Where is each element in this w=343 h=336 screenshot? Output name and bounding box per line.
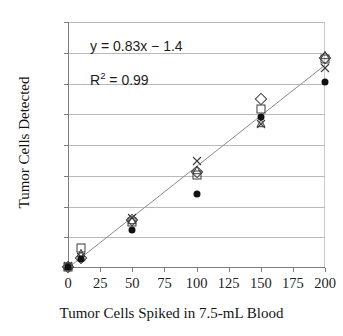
r-squared-annotation: R2 = 0.99	[90, 70, 149, 88]
data-point-open-triangle	[321, 51, 330, 60]
x-tick-mark	[164, 268, 165, 272]
x-tick-mark	[293, 268, 294, 272]
x-tick-mark	[197, 268, 198, 272]
x-tick-label: 200	[305, 276, 343, 291]
y-tick-mark	[64, 53, 68, 54]
gridline	[68, 22, 325, 23]
gridline	[68, 114, 325, 115]
data-point-filled-circle	[129, 226, 136, 233]
data-point-filled-circle	[77, 256, 84, 263]
y-tick-mark	[64, 176, 68, 177]
gridline	[68, 237, 325, 238]
data-point-filled-circle	[322, 79, 329, 86]
data-point-filled-circle	[65, 263, 72, 270]
x-axis-title: Tumor Cells Spiked in 7.5-mL Blood	[0, 305, 343, 322]
plot-area: y = 0.83x − 1.4 R2 = 0.99	[68, 22, 325, 268]
x-tick-mark	[132, 268, 133, 272]
y-tick-mark	[64, 22, 68, 23]
data-point-cross	[192, 156, 201, 165]
x-tick-mark	[100, 268, 101, 272]
scatter-chart-figure: y = 0.83x − 1.4 R2 = 0.99 02550751001251…	[0, 0, 343, 336]
data-point-filled-circle	[193, 191, 200, 198]
gridline	[68, 207, 325, 208]
data-point-open-triangle	[192, 165, 201, 174]
y-tick-mark	[64, 145, 68, 146]
y-axis-title: Tumor Cells Detected	[16, 23, 33, 263]
y-axis-line	[68, 22, 69, 268]
y-tick-mark	[64, 114, 68, 115]
data-point-filled-circle	[257, 113, 264, 120]
x-tick-mark	[261, 268, 262, 272]
x-tick-mark	[229, 268, 230, 272]
y-tick-mark	[64, 84, 68, 85]
data-point-cross	[256, 120, 265, 129]
gridline	[68, 145, 325, 146]
data-point-cross	[128, 213, 137, 222]
y-tick-mark	[64, 207, 68, 208]
y-tick-mark	[64, 237, 68, 238]
data-point-cross	[321, 63, 330, 72]
x-tick-mark	[325, 268, 326, 272]
equation-annotation: y = 0.83x − 1.4	[90, 38, 183, 54]
